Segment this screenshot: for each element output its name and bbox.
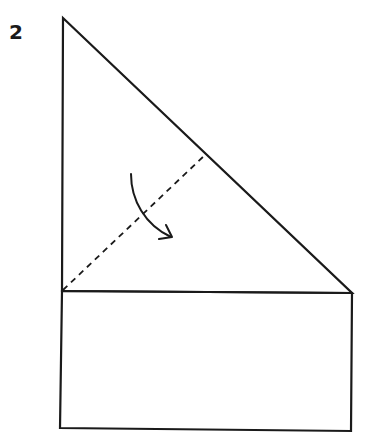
- triangle-flap: [62, 18, 352, 293]
- dashed-fold-line: [63, 155, 205, 290]
- rectangle-body: [60, 291, 352, 431]
- fold-diagram: [0, 0, 382, 442]
